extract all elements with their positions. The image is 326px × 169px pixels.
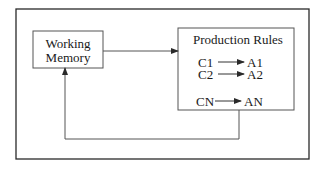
- rule-action-2: A2: [247, 68, 263, 81]
- diagram-lines: [0, 0, 326, 169]
- rule-condition-n: CN: [196, 95, 214, 108]
- diagram-canvas: Working Memory Production Rules C1 A1 C2…: [0, 0, 326, 169]
- rule-action-n: AN: [244, 95, 263, 108]
- working-memory-label: Working Memory: [33, 37, 103, 65]
- working-memory-line2: Memory: [33, 51, 103, 65]
- rule-condition-2: C2: [198, 68, 213, 81]
- working-memory-line1: Working: [33, 37, 103, 51]
- production-rules-title: Production Rules: [193, 33, 283, 46]
